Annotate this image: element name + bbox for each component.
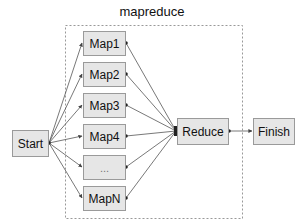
edge-map2-reduce — [126, 74, 176, 131]
reduce-node: Reduce — [177, 118, 229, 145]
map4-node: Map4 — [83, 124, 126, 149]
map3-node: Map3 — [83, 93, 126, 118]
start-node: Start — [12, 130, 49, 157]
edge-mapn-reduce — [126, 131, 176, 198]
edge-start-mapn — [49, 143, 82, 198]
ellipsis-node: ... — [83, 155, 126, 180]
edge-start-ellipsis — [49, 143, 82, 167]
map1-node: Map1 — [83, 31, 126, 56]
map2-node: Map2 — [83, 62, 126, 87]
edge-map4-reduce — [126, 131, 176, 136]
finish-node: Finish — [253, 118, 295, 145]
edge-ellipsis-reduce — [126, 131, 176, 167]
edges-layer — [0, 0, 304, 224]
mapn-node: MapN — [83, 186, 126, 211]
